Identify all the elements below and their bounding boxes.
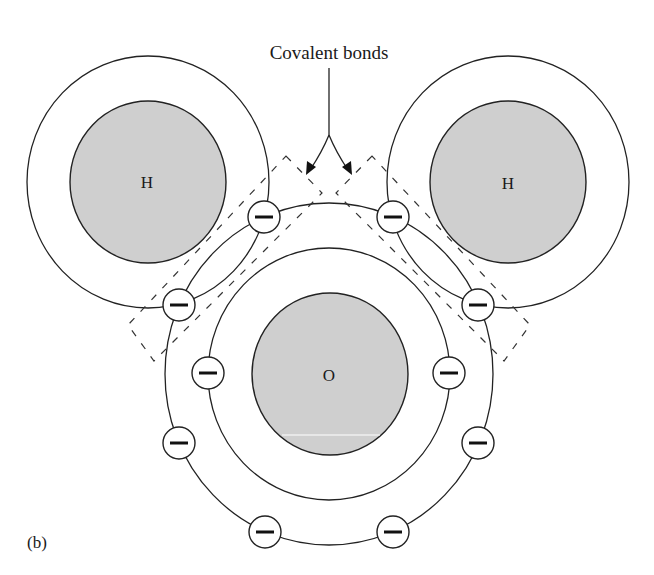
hydrogen-atom-right: H — [387, 56, 629, 308]
pointer-branch-right — [329, 135, 348, 170]
pointer-branch-left — [310, 135, 329, 170]
electron-outer-left-lower — [163, 427, 195, 459]
hydrogen-atom-left: H — [27, 56, 269, 308]
covalent-bonds-label: Covalent bonds — [270, 42, 389, 63]
figure-label: (b) — [27, 533, 47, 552]
electron-outer-right-lower — [462, 427, 494, 459]
electron-shared-left-top — [248, 201, 280, 233]
covalent-bonds-pointer — [306, 68, 352, 175]
electron-inner-left — [192, 357, 224, 389]
hydrogen-right-label: H — [502, 174, 514, 193]
electron-shared-left-bottom — [163, 289, 195, 321]
oxygen-label: O — [323, 366, 335, 385]
electron-shared-right-top — [377, 201, 409, 233]
water-molecule-diagram: H H O — [0, 0, 654, 575]
electron-outer-bottom-right — [377, 516, 409, 548]
electron-outer-bottom-left — [249, 516, 281, 548]
hydrogen-left-label: H — [141, 173, 153, 192]
electron-shared-right-bottom — [462, 289, 494, 321]
electron-inner-right — [433, 357, 465, 389]
